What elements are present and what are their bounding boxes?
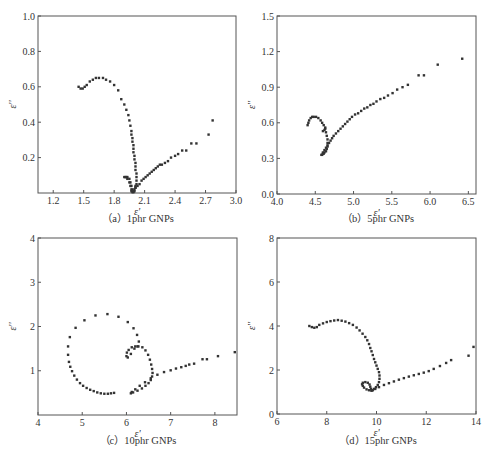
data-point bbox=[130, 353, 132, 355]
data-point bbox=[377, 384, 379, 386]
data-point bbox=[190, 142, 192, 144]
data-point bbox=[408, 375, 410, 377]
data-point bbox=[318, 324, 320, 326]
data-point bbox=[73, 374, 75, 376]
x-tick-label: 12 bbox=[421, 416, 431, 427]
data-point bbox=[135, 176, 137, 178]
data-point bbox=[109, 80, 111, 82]
data-point bbox=[308, 119, 310, 121]
x-tick-label: 2.7 bbox=[199, 195, 212, 206]
data-point bbox=[92, 79, 94, 81]
data-point bbox=[185, 149, 187, 151]
data-point bbox=[308, 325, 310, 327]
data-point bbox=[105, 79, 107, 81]
x-tick-label: 1.5 bbox=[77, 195, 90, 206]
data-point bbox=[329, 139, 331, 141]
y-tick-label: 1.2 bbox=[262, 46, 275, 57]
x-tick-label: 6.5 bbox=[462, 196, 475, 207]
data-point bbox=[133, 347, 135, 349]
data-point bbox=[313, 327, 315, 329]
data-point bbox=[344, 123, 346, 125]
data-point bbox=[138, 183, 140, 185]
data-point bbox=[375, 364, 377, 366]
panel-b: 4.04.55.05.56.06.50.00.30.60.91.21.5ε'ε'… bbox=[246, 11, 476, 225]
data-point bbox=[445, 362, 447, 364]
data-point bbox=[83, 319, 85, 321]
data-point bbox=[332, 135, 334, 137]
data-point bbox=[141, 387, 143, 389]
data-point bbox=[365, 388, 367, 390]
data-point bbox=[369, 347, 371, 349]
data-point bbox=[306, 124, 308, 126]
plot-frame bbox=[38, 238, 237, 415]
data-point bbox=[164, 162, 166, 164]
data-point bbox=[175, 367, 177, 369]
data-point bbox=[127, 349, 129, 351]
data-point bbox=[128, 119, 130, 121]
data-point bbox=[322, 151, 324, 153]
data-point bbox=[156, 374, 158, 376]
data-point bbox=[169, 369, 171, 371]
data-point bbox=[363, 107, 365, 109]
data-point bbox=[374, 388, 376, 390]
data-point bbox=[311, 326, 313, 328]
data-point bbox=[357, 112, 359, 114]
data-point bbox=[368, 383, 370, 385]
data-point bbox=[193, 362, 195, 364]
data-point bbox=[211, 119, 213, 121]
data-point bbox=[316, 326, 318, 328]
data-point bbox=[342, 125, 344, 127]
data-point bbox=[325, 147, 327, 149]
data-point bbox=[110, 392, 112, 394]
data-point bbox=[113, 84, 115, 86]
data-point bbox=[103, 393, 105, 395]
data-point bbox=[368, 343, 370, 345]
data-point bbox=[144, 385, 146, 387]
y-tick-label: 0.6 bbox=[23, 81, 36, 92]
data-point bbox=[67, 345, 69, 347]
x-tick-label: 3.0 bbox=[230, 195, 243, 206]
panel-d: 6810121402468ε'ε''（d）15phr GNPs bbox=[246, 233, 481, 447]
data-point bbox=[67, 354, 69, 356]
data-point bbox=[388, 382, 390, 384]
x-tick-label: 10 bbox=[372, 416, 382, 427]
data-point bbox=[128, 181, 130, 183]
data-point bbox=[398, 378, 400, 380]
data-point bbox=[360, 110, 362, 112]
data-point bbox=[136, 389, 138, 391]
data-point bbox=[151, 368, 153, 370]
data-point bbox=[134, 165, 136, 167]
data-point bbox=[167, 160, 169, 162]
data-point bbox=[375, 100, 377, 102]
data-point bbox=[369, 104, 371, 106]
x-tick-label: 7 bbox=[168, 417, 173, 428]
data-point bbox=[133, 158, 135, 160]
data-point bbox=[373, 358, 375, 360]
data-point bbox=[206, 358, 208, 360]
data-point bbox=[141, 346, 143, 348]
data-point bbox=[401, 86, 403, 88]
data-point bbox=[391, 92, 393, 94]
y-tick-label: 0.2 bbox=[23, 152, 36, 163]
data-point bbox=[86, 84, 88, 86]
y-tick-label: 1.5 bbox=[262, 11, 275, 22]
y-tick-label: 0.8 bbox=[23, 46, 36, 57]
y-axis-label: ε'' bbox=[7, 100, 18, 109]
data-point bbox=[161, 163, 163, 165]
data-point bbox=[396, 88, 398, 90]
data-point bbox=[403, 377, 405, 379]
panel-a: 1.21.51.82.12.42.73.00.20.40.60.81.0ε'ε'… bbox=[7, 11, 242, 225]
x-tick-label: 8 bbox=[324, 416, 329, 427]
data-point bbox=[322, 322, 324, 324]
data-point bbox=[113, 392, 115, 394]
data-point bbox=[132, 190, 134, 192]
data-point bbox=[151, 372, 153, 374]
data-point bbox=[333, 319, 335, 321]
data-point bbox=[335, 132, 337, 134]
data-point bbox=[93, 390, 95, 392]
panel-caption: （c）10phr GNPs bbox=[100, 435, 177, 446]
data-point bbox=[89, 80, 91, 82]
data-point bbox=[131, 391, 133, 393]
y-tick-label: 4 bbox=[269, 321, 274, 332]
y-tick-label: 4 bbox=[30, 233, 35, 244]
